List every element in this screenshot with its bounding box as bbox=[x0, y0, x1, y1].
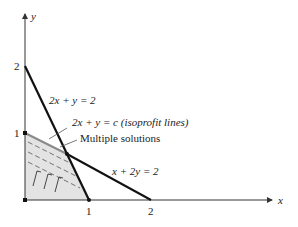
multiple-solutions-label: Multiple solutions bbox=[80, 132, 160, 144]
x-tick-1: 1 bbox=[86, 205, 92, 217]
y-axis-label: y bbox=[30, 10, 36, 22]
constraint-label-2x-y: 2x + y = 2 bbox=[49, 94, 96, 106]
lp-diagram: y x 2 1 1 2 2x + y = 2 2x + y = c (isopr… bbox=[0, 0, 298, 227]
y-tick-2: 2 bbox=[14, 60, 20, 72]
y-tick-1: 1 bbox=[14, 127, 20, 139]
x-tick-2: 2 bbox=[148, 205, 154, 217]
constraint-label-x-2y: x + 2y = 2 bbox=[111, 165, 159, 177]
x-axis-label: x bbox=[277, 194, 283, 206]
isoprofit-label: 2x + y = c (isoprofit lines) bbox=[72, 116, 189, 129]
